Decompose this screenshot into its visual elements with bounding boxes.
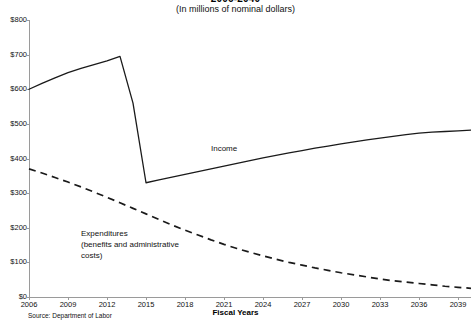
source-note: Source: Department of Labor [28, 312, 112, 319]
income-series-label: Income [211, 144, 237, 153]
expenditures-label-line-3: costs) [81, 250, 179, 261]
expenditures-label-line-2: (benefits and administrative [81, 239, 179, 250]
income-line-series [29, 56, 471, 182]
expenditures-series-label: Expenditures (benefits and administrativ… [81, 228, 179, 261]
chart-series-layer [0, 0, 471, 325]
chart-page: 2006-2040 (In millions of nominal dollar… [0, 0, 471, 325]
expenditures-label-line-1: Expenditures [81, 228, 179, 239]
